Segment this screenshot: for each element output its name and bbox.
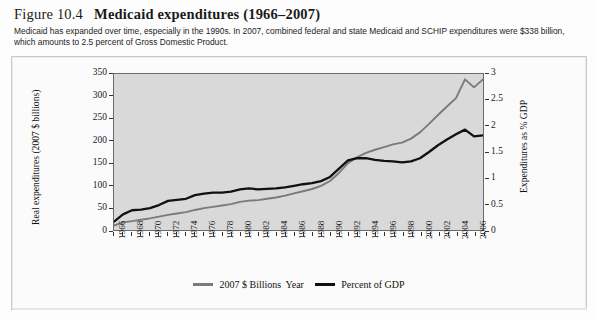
x-axis-tick-label: 1972 bbox=[171, 221, 181, 239]
x-axis-tick-label: 1994 bbox=[370, 221, 380, 239]
x-axis-tick bbox=[113, 232, 114, 236]
figure-title-text: Medicaid expenditures (1966–2007) bbox=[94, 6, 320, 22]
x-axis-tick-label: 1968 bbox=[135, 221, 145, 239]
x-axis-tick-label: 1998 bbox=[406, 221, 416, 239]
x-axis-tick-label: 1980 bbox=[243, 221, 253, 239]
x-axis-tick bbox=[203, 232, 204, 236]
x-axis-tick-label: 1992 bbox=[352, 221, 362, 239]
x-axis-tick bbox=[258, 232, 259, 236]
x-axis-tick-label: 2000 bbox=[424, 221, 434, 239]
x-axis-tick-label: 1976 bbox=[207, 221, 217, 239]
x-axis-tick-label: 2002 bbox=[442, 221, 452, 239]
y-axis-right-title: Expenditures as % GDP bbox=[518, 100, 529, 193]
y-axis-left-tick-label: 150 bbox=[77, 157, 107, 167]
x-axis-tick bbox=[276, 232, 277, 236]
x-axis-tick bbox=[312, 232, 313, 236]
x-axis-tick-label: 1966 bbox=[117, 221, 127, 239]
y-axis-right-tick bbox=[485, 73, 489, 74]
x-axis-tick bbox=[149, 232, 150, 236]
series-line-gdp bbox=[114, 130, 483, 222]
x-axis-tick bbox=[403, 232, 404, 236]
y-axis-right-tick bbox=[485, 152, 489, 153]
x-axis-tick bbox=[240, 232, 241, 236]
x-axis-tick bbox=[366, 232, 367, 236]
y-axis-left-tick-label: 200 bbox=[77, 135, 107, 145]
x-axis-tick bbox=[185, 232, 186, 236]
y-axis-left-tick bbox=[109, 95, 113, 96]
y-axis-right-tick bbox=[485, 178, 489, 179]
x-axis-tick bbox=[294, 232, 295, 236]
y-axis-right-tick-label: 3 bbox=[491, 67, 515, 77]
x-axis-tick-label: 2004 bbox=[460, 221, 470, 239]
legend-item-billions: 2007 $ Billions bbox=[193, 279, 281, 290]
x-axis-tick-label: 1982 bbox=[261, 221, 271, 239]
y-axis-left-tick-label: 350 bbox=[77, 67, 107, 77]
y-axis-left-tick bbox=[109, 185, 113, 186]
legend-swatch-billions bbox=[193, 283, 213, 285]
x-axis-tick-label: 1990 bbox=[334, 221, 344, 239]
y-axis-right-tick bbox=[485, 125, 489, 126]
y-axis-right-tick-label: 0.5 bbox=[491, 199, 515, 209]
x-axis-tick-label: 1988 bbox=[316, 221, 326, 239]
x-axis-tick-label: 1978 bbox=[225, 221, 235, 239]
y-axis-right-tick-label: 2 bbox=[491, 120, 515, 130]
x-axis-tick-label: 1996 bbox=[388, 221, 398, 239]
x-axis-tick bbox=[222, 232, 223, 236]
y-axis-left-tick-label: 50 bbox=[77, 202, 107, 212]
y-axis-left-title: Real expenditures (2007 $ billions) bbox=[30, 90, 41, 225]
y-axis-left-tick bbox=[109, 73, 113, 74]
x-axis-tick bbox=[167, 232, 168, 236]
y-axis-left-tick bbox=[109, 208, 113, 209]
figure-title: Figure 10.4Medicaid expenditures (1966–2… bbox=[14, 6, 586, 23]
x-axis-tick bbox=[384, 232, 385, 236]
figure-page: Figure 10.4Medicaid expenditures (1966–2… bbox=[0, 0, 596, 319]
y-axis-left-tick-label: 300 bbox=[77, 90, 107, 100]
chart-lines bbox=[114, 74, 483, 230]
figure-box: Real expenditures (2007 $ billions) Expe… bbox=[11, 56, 587, 310]
y-axis-left-tick-label: 100 bbox=[77, 180, 107, 190]
chart-legend: 2007 $ Billions Percent of GDP bbox=[12, 279, 586, 290]
x-axis-tick bbox=[439, 232, 440, 236]
y-axis-right-tick-label: 0 bbox=[491, 225, 515, 235]
y-axis-right-tick bbox=[485, 99, 489, 100]
figure-number: Figure 10.4 bbox=[14, 6, 83, 22]
y-axis-right-tick-label: 1.5 bbox=[491, 146, 515, 156]
y-axis-right-tick bbox=[485, 204, 489, 205]
x-axis-tick bbox=[330, 232, 331, 236]
y-axis-left-tick-label: 0 bbox=[77, 225, 107, 235]
legend-label-billions: 2007 $ Billions bbox=[219, 279, 281, 290]
legend-label-gdp: Percent of GDP bbox=[341, 279, 404, 290]
x-axis-tick-label: 1984 bbox=[279, 221, 289, 239]
x-axis-tick bbox=[475, 232, 476, 236]
y-axis-left-tick bbox=[109, 118, 113, 119]
figure-bottom-shadow bbox=[13, 308, 587, 310]
x-axis-tick-label: 2006 bbox=[478, 221, 488, 239]
x-axis-tick-label: 1974 bbox=[189, 221, 199, 239]
figure-caption: Medicaid has expanded over time, especia… bbox=[14, 26, 580, 49]
x-axis-tick-label: 1970 bbox=[153, 221, 163, 239]
x-axis-tick bbox=[348, 232, 349, 236]
y-axis-left-tick-label: 250 bbox=[77, 112, 107, 122]
figure-header: Figure 10.4Medicaid expenditures (1966–2… bbox=[14, 6, 586, 49]
x-axis-tick bbox=[131, 232, 132, 236]
legend-swatch-gdp bbox=[315, 283, 335, 286]
legend-item-gdp: Percent of GDP bbox=[315, 279, 404, 290]
x-axis-tick bbox=[421, 232, 422, 236]
y-axis-right-tick-label: 2.5 bbox=[491, 93, 515, 103]
x-axis-tick-label: 1986 bbox=[297, 221, 307, 239]
y-axis-left-tick bbox=[109, 163, 113, 164]
plot-area bbox=[113, 73, 484, 231]
y-axis-left-tick bbox=[109, 140, 113, 141]
y-axis-right-tick-label: 1 bbox=[491, 172, 515, 182]
x-axis-tick bbox=[457, 232, 458, 236]
